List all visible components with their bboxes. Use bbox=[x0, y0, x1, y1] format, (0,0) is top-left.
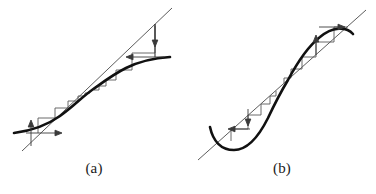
identity-line bbox=[22, 8, 172, 151]
panel-a-caption: (a) bbox=[0, 160, 188, 177]
figure-root: (a) bbox=[0, 0, 376, 194]
panel-b-caption: (b) bbox=[188, 160, 376, 177]
map-curve-stable bbox=[14, 57, 170, 133]
identity-line bbox=[198, 10, 366, 160]
panel-a: (a) bbox=[0, 0, 188, 194]
panel-b: (b) bbox=[188, 0, 376, 194]
